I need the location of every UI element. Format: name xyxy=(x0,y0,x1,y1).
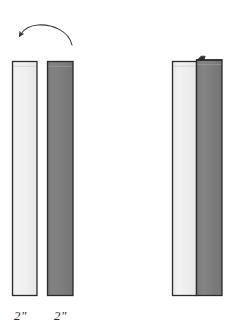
figure-canvas xyxy=(0,0,235,333)
board-assembly-figure: 2" 2" xyxy=(0,0,235,333)
joint-tab xyxy=(197,56,222,60)
dark-board xyxy=(48,62,74,296)
light-board-assembled xyxy=(173,62,197,296)
flip-arrow xyxy=(21,25,73,45)
dark-board-assembled xyxy=(197,60,223,296)
dimension-label-light-board: 2" xyxy=(14,309,27,322)
dimension-label-dark-board: 2" xyxy=(54,309,67,322)
light-board xyxy=(13,62,38,296)
